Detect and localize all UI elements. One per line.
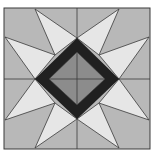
quilt-block-diagram (0, 0, 153, 154)
